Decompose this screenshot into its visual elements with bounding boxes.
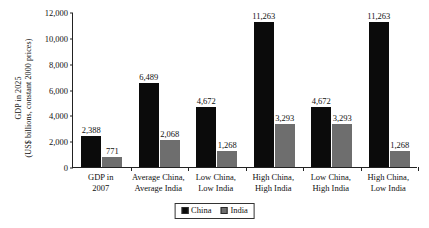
y-axis-title-line1: GDP in 2025: [14, 18, 24, 178]
x-axis-tick-mark: [361, 167, 362, 171]
legend-swatch-india-icon: [220, 207, 227, 214]
bar-value-label: 4,672: [305, 97, 337, 106]
y-axis-title: GDP in 2025 (US$ billions, constant 2000…: [14, 18, 34, 178]
bar-value-label: 11,263: [363, 12, 395, 21]
y-axis-tick-mark: [70, 116, 73, 117]
y-axis-tick-mark: [70, 64, 73, 65]
x-axis-tick-mark: [303, 167, 304, 171]
bar-china-3: [254, 22, 274, 167]
x-axis-category-label: High China,Low India: [354, 172, 424, 194]
legend-label-china: China: [191, 206, 211, 215]
y-axis-tick-label: 6,000: [32, 86, 73, 95]
bar-india-2: [217, 151, 237, 167]
x-axis-category-line: Low India: [354, 183, 424, 194]
chart-legend: China India: [174, 203, 255, 219]
y-axis-tick-label: 2,000: [32, 138, 73, 147]
y-axis-tick-label: 4,000: [32, 112, 73, 121]
bar-value-label: 3,293: [269, 114, 301, 123]
y-axis-tick-label: 0: [32, 164, 73, 173]
bar-value-label: 1,268: [384, 141, 416, 150]
bar-china-1: [139, 83, 159, 167]
y-axis-tick-mark: [70, 90, 73, 91]
legend-swatch-china-icon: [181, 207, 188, 214]
bar-value-label: 6,489: [133, 73, 165, 82]
y-axis-tick-label: 10,000: [32, 35, 73, 44]
y-axis-tick-mark: [70, 142, 73, 143]
legend-item-india: India: [220, 206, 247, 215]
y-axis-tick-label: 12,000: [32, 9, 73, 18]
bar-india-4: [332, 124, 352, 167]
x-axis-category-line: High China,: [354, 172, 424, 183]
bar-china-2: [196, 107, 216, 167]
bar-value-label: 1,268: [211, 141, 243, 150]
bar-value-label: 2,068: [154, 130, 186, 139]
x-axis-tick-mark: [418, 167, 419, 171]
bar-india-5: [390, 151, 410, 167]
bar-value-label: 2,388: [75, 126, 107, 135]
bar-value-label: 771: [96, 147, 128, 156]
x-axis-tick-mark: [246, 167, 247, 171]
bar-value-label: 4,672: [190, 97, 222, 106]
y-axis-tick-mark: [70, 38, 73, 39]
bar-value-label: 3,293: [326, 114, 358, 123]
legend-label-india: India: [230, 206, 247, 215]
y-axis-tick-mark: [70, 168, 73, 169]
legend-item-china: China: [181, 206, 211, 215]
bar-india-0: [102, 157, 122, 167]
bar-india-3: [275, 124, 295, 167]
bar-value-label: 11,263: [248, 12, 280, 21]
bar-india-1: [160, 140, 180, 167]
x-axis-tick-mark: [131, 167, 132, 171]
x-axis-tick-mark: [188, 167, 189, 171]
y-axis-tick-label: 8,000: [32, 60, 73, 69]
y-axis-tick-mark: [70, 13, 73, 14]
plot-area: 02,0004,0006,0008,00010,00012,0002,38877…: [72, 13, 417, 168]
bar-chart: GDP in 2025 (US$ billions, constant 2000…: [0, 0, 429, 228]
